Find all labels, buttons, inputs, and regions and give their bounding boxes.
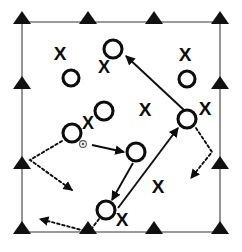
pass-arrow-deep-to-top <box>126 56 185 111</box>
defender-x-6: X <box>199 98 212 119</box>
cone-right-lower <box>211 156 229 169</box>
player-o-4 <box>95 102 113 120</box>
cone-bottom-mid-right <box>145 221 163 234</box>
player-o-6 <box>63 124 81 142</box>
pass-arrow-thrower-to-cutter <box>92 145 124 152</box>
cone-top-right <box>211 11 229 24</box>
cone-top-left <box>13 11 31 24</box>
pass-arrow-under-to-deep <box>118 128 178 208</box>
player-o-8 <box>97 201 115 219</box>
cone-right-upper <box>211 76 229 89</box>
player-o-5 <box>178 110 196 128</box>
disc-marker <box>80 141 87 148</box>
player-o-3 <box>179 71 195 87</box>
defender-x-2: X <box>98 57 110 77</box>
cut-arrow-handler-swing <box>30 141 72 190</box>
cone-bottom-left <box>13 221 31 234</box>
pass-arrow-cutter-to-under <box>112 163 133 200</box>
cone-left-upper <box>13 76 31 89</box>
defender-x-8: X <box>116 209 129 230</box>
cut-arrow-deep-clear <box>191 128 212 178</box>
cone-bottom-right <box>211 221 229 234</box>
defender-x-4: X <box>82 113 94 133</box>
defender-x-5: X <box>139 99 152 120</box>
cone-top-mid-right <box>145 11 163 24</box>
pass-arrow-group <box>92 56 185 208</box>
player-o-1 <box>104 40 122 58</box>
disc-center-dot <box>82 143 85 146</box>
defender-x-1: X <box>54 43 67 64</box>
player-o-7 <box>127 143 145 161</box>
cone-left-lower <box>13 156 31 169</box>
defender-x-7: X <box>152 176 165 197</box>
defender-x-3: X <box>179 44 192 65</box>
cone-top-mid-left <box>79 11 97 24</box>
player-o-2 <box>63 70 79 86</box>
play-diagram: X X X X X X X X <box>0 0 242 252</box>
